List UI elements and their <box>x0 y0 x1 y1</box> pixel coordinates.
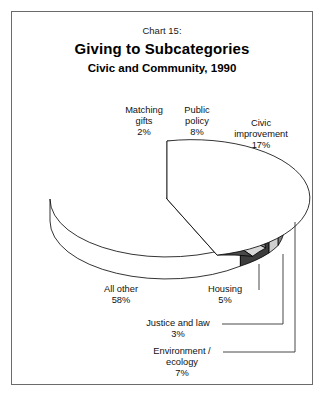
chart-card: Chart 15: Giving to Subcategories Civic … <box>11 11 313 385</box>
label-matching-gifts: Matching gifts 2% <box>113 105 175 139</box>
slice-all-other <box>167 140 310 255</box>
label-environment-ecology: Environment / ecology 7% <box>142 346 222 380</box>
label-housing: Housing 5% <box>196 284 254 306</box>
label-justice-and-law: Justice and law 3% <box>136 318 220 340</box>
label-public-policy: Public policy 8% <box>171 105 223 139</box>
label-civic-improvement: Civic improvement 17% <box>222 118 300 152</box>
label-all-other: All other 58% <box>85 284 157 306</box>
